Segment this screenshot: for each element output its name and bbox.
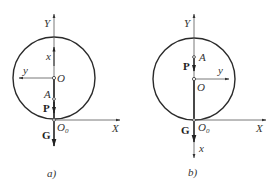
panel-b: Y X A P y O G O0 x b) [153,14,266,179]
label-global-y: Y [44,17,52,29]
caption-b: b) [188,166,198,179]
label-point-a: A [43,88,51,100]
label-local-x: x [45,50,51,62]
label-force-p: P [43,102,50,114]
label-center-o: O [57,72,65,84]
label-point-a: A [198,51,206,63]
origin-point [193,119,196,122]
label-center-o: O [197,81,205,93]
label-local-y: y [22,64,28,76]
label-origin: O0 [198,121,210,135]
point-a [193,56,196,59]
center-point-o [192,77,195,80]
label-global-x: X [111,122,120,134]
origin-point [53,119,56,122]
caption-a: a) [47,167,57,180]
label-local-x: x [198,142,204,154]
label-local-y: y [217,64,223,76]
label-global-x: X [255,122,264,134]
label-origin: O0 [57,121,69,135]
label-global-y: Y [184,17,192,29]
point-a [53,98,56,101]
label-force-p: P [183,60,190,72]
diagram-canvas: Y X x y O A P G O0 a) Y X A P y [0,0,277,188]
label-force-g: G [181,124,190,136]
label-force-g: G [42,129,51,141]
panel-a: Y X x y O A P G O0 a) [13,14,120,180]
center-point-o [52,76,55,79]
